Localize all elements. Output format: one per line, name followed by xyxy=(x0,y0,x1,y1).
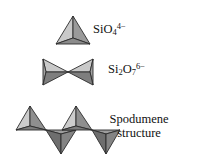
row-dimer xyxy=(40,56,96,88)
label-sio4: SiO44− xyxy=(93,22,126,36)
chain-down1-face-left xyxy=(46,130,61,154)
label-sio4-lead: SiO xyxy=(93,22,112,36)
double-tetrahedron-icon xyxy=(40,56,96,88)
chain-tetra-up-1 xyxy=(16,106,46,130)
label-spodumene-line1: Spodumene xyxy=(109,112,168,126)
dimer-right-face-top xyxy=(68,59,93,72)
dimer-right-face-bottom xyxy=(68,72,93,85)
label-si2o7-mid: O xyxy=(123,62,132,76)
dimer-left-face-top xyxy=(43,59,68,72)
chain-down1-face-right xyxy=(61,130,76,154)
row-chain xyxy=(14,102,122,158)
silicate-tetrahedra-diagram: SiO44− Si2O76− xyxy=(0,0,205,165)
dimer-left-face-bottom xyxy=(43,72,68,85)
label-si2o7-sup: 6− xyxy=(136,61,145,71)
label-si2o7: Si2O76− xyxy=(108,62,145,76)
label-si2o7-lead: Si xyxy=(108,62,118,76)
row-monomer xyxy=(54,14,92,48)
chain-tetra-up-2 xyxy=(62,106,92,130)
label-spodumene: Spodumene structure xyxy=(109,112,168,140)
chain-down2-face-left xyxy=(92,130,106,154)
label-spodumene-line2: structure xyxy=(109,126,168,140)
single-tetrahedron-icon xyxy=(54,14,92,48)
chain-tetra-down-1 xyxy=(46,130,76,154)
label-sio4-sup: 4− xyxy=(117,21,126,31)
tetrahedra-chain-icon xyxy=(14,102,122,158)
